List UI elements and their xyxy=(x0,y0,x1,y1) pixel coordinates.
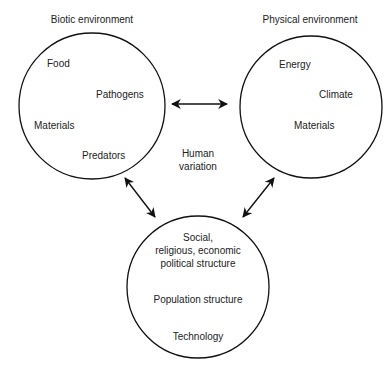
item-religious-economic: religious, economic xyxy=(155,245,241,256)
item-technology: Technology xyxy=(173,331,224,342)
human-variation-diagram: Biotic environment Food Pathogens Materi… xyxy=(0,0,391,371)
item-materials-biotic: Materials xyxy=(34,120,75,131)
node-title-physical: Physical environment xyxy=(262,14,357,25)
item-predators: Predators xyxy=(82,150,125,161)
item-energy: Energy xyxy=(279,59,311,70)
center-label-line2: variation xyxy=(179,161,217,172)
node-physical-environment: Physical environment Energy Climate Mate… xyxy=(240,14,382,178)
node-social-structure: Social, religious, economic political st… xyxy=(127,216,269,358)
center-label-line1: Human xyxy=(182,148,214,159)
node-title-biotic: Biotic environment xyxy=(51,14,133,25)
node-biotic-environment: Biotic environment Food Pathogens Materi… xyxy=(19,14,165,179)
item-food: Food xyxy=(47,58,70,69)
center-label-human-variation: Human variation xyxy=(179,148,217,172)
item-climate: Climate xyxy=(319,89,353,100)
circle-physical xyxy=(240,36,382,178)
bidirectional-arrow-physical-social xyxy=(243,178,274,217)
item-social: Social, xyxy=(183,232,213,243)
item-materials-physical: Materials xyxy=(294,120,335,131)
bidirectional-arrow-biotic-social xyxy=(125,178,155,217)
item-political-structure: political structure xyxy=(160,258,235,269)
item-population-structure: Population structure xyxy=(154,294,243,305)
item-pathogens: Pathogens xyxy=(96,89,144,100)
